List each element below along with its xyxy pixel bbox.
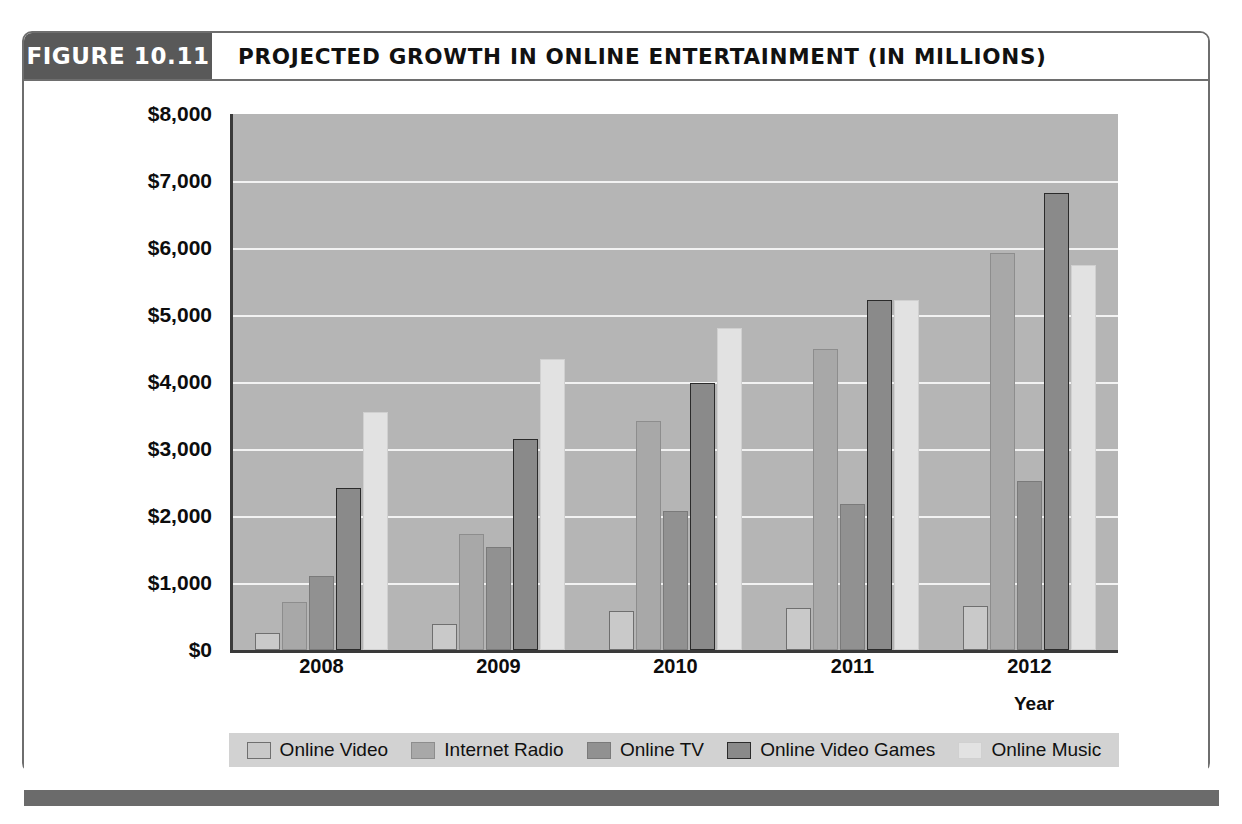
x-axis-labels: 20082009201020112012 <box>233 655 1118 678</box>
bar <box>459 534 484 650</box>
y-axis-tick-label: $2,000 <box>148 504 212 528</box>
bar-group <box>233 114 410 650</box>
x-axis-tick-label: 2008 <box>233 655 410 678</box>
bar-group <box>410 114 587 650</box>
figure-title-band: FIGURE 10.11 PROJECTED GROWTH IN ONLINE … <box>24 33 1208 81</box>
x-axis-tick-label: 2009 <box>410 655 587 678</box>
figure-container: FIGURE 10.11 PROJECTED GROWTH IN ONLINE … <box>22 31 1210 773</box>
x-axis-tick-label: 2012 <box>941 655 1118 678</box>
chart-legend: Online VideoInternet RadioOnline TVOnlin… <box>229 733 1119 767</box>
legend-item[interactable]: Internet Radio <box>411 739 563 761</box>
y-axis-tick-label: $6,000 <box>148 236 212 260</box>
bar <box>432 624 457 650</box>
x-axis-title: Year <box>1014 693 1054 715</box>
y-axis-tick-label: $0 <box>189 638 212 662</box>
bar-groups <box>233 114 1118 650</box>
bar <box>513 439 538 650</box>
legend-label: Online TV <box>620 739 704 761</box>
bar <box>894 300 919 650</box>
bar <box>486 547 511 650</box>
bar <box>636 421 661 650</box>
y-axis-tick-label: $1,000 <box>148 571 212 595</box>
bar <box>717 328 742 650</box>
legend-swatch-icon <box>958 742 982 759</box>
bottom-rule-edge <box>24 806 1219 809</box>
bar <box>1017 481 1042 650</box>
legend-label: Online Music <box>991 739 1101 761</box>
x-axis-tick-label: 2010 <box>587 655 764 678</box>
bar <box>336 488 361 650</box>
y-axis-tick-label: $5,000 <box>148 303 212 327</box>
legend-swatch-icon <box>411 742 435 759</box>
figure-number-tab: FIGURE 10.11 <box>24 33 212 79</box>
bar <box>963 606 988 650</box>
bar <box>255 633 280 650</box>
bar <box>990 253 1015 650</box>
bar <box>1071 265 1096 650</box>
legend-item[interactable]: Online Video <box>247 739 388 761</box>
legend-item[interactable]: Online Music <box>958 739 1101 761</box>
legend-label: Online Video Games <box>760 739 935 761</box>
bar <box>840 504 865 650</box>
bar-group <box>941 114 1118 650</box>
bar <box>867 300 892 650</box>
bar <box>813 349 838 651</box>
bar-group <box>587 114 764 650</box>
legend-swatch-icon <box>247 742 271 759</box>
bar <box>609 611 634 650</box>
bar <box>1044 193 1069 650</box>
bottom-decorative-rule <box>24 790 1219 807</box>
bar-group <box>764 114 941 650</box>
chart-area: $8,000$7,000$6,000$5,000$4,000$3,000$2,0… <box>24 81 1208 773</box>
bar <box>540 359 565 650</box>
legend-item[interactable]: Online Video Games <box>727 739 935 761</box>
bar <box>663 511 688 650</box>
figure-title: PROJECTED GROWTH IN ONLINE ENTERTAINMENT… <box>212 33 1208 79</box>
y-axis-tick-label: $7,000 <box>148 169 212 193</box>
bar <box>786 608 811 650</box>
bar <box>309 576 334 650</box>
bar <box>690 383 715 650</box>
legend-label: Online Video <box>280 739 388 761</box>
y-axis-labels: $8,000$7,000$6,000$5,000$4,000$3,000$2,0… <box>24 114 220 650</box>
bar <box>363 412 388 650</box>
x-axis-tick-label: 2011 <box>764 655 941 678</box>
y-axis-tick-label: $8,000 <box>148 102 212 126</box>
y-axis-tick-label: $4,000 <box>148 370 212 394</box>
bar <box>282 602 307 650</box>
legend-label: Internet Radio <box>444 739 563 761</box>
legend-swatch-icon <box>727 742 751 759</box>
y-axis-tick-label: $3,000 <box>148 437 212 461</box>
legend-item[interactable]: Online TV <box>587 739 704 761</box>
legend-swatch-icon <box>587 742 611 759</box>
